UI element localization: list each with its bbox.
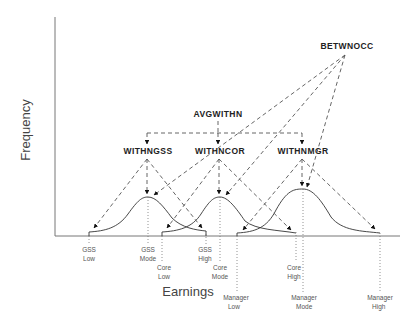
x-axis-label: Earnings [162,284,214,299]
svg-text:Manager: Manager [223,294,249,302]
svg-text:High: High [372,303,386,311]
tick-gss-high: GSS High [198,246,212,263]
node-withngss: WITHNGSS [123,146,172,156]
betwnocc-arrows [154,55,345,195]
svg-text:GSS: GSS [82,246,96,253]
node-withncor: WITHNCOR [195,146,245,156]
tick-mgr-low: Manager Low [223,294,249,310]
svg-text:Low: Low [158,273,170,280]
tick-gss-mode: GSS Mode [140,246,157,262]
svg-text:Mode: Mode [140,255,157,262]
svg-text:High: High [287,273,301,281]
svg-text:Mode: Mode [212,273,229,280]
svg-text:Manager: Manager [367,294,393,302]
svg-text:High: High [198,255,212,263]
withngss-arrows [94,159,202,228]
withnmgr-arrows [243,159,375,230]
tick-mgr-mode: Manager Mode [291,294,317,310]
y-axis-label: Frequency [18,99,33,161]
manager-distribution-curve [237,189,380,236]
withncor-arrows [167,159,291,230]
svg-text:Mode: Mode [296,303,313,310]
node-withnmgr: WITHNMGR [278,146,329,156]
tick-gss-low: GSS Low [82,246,96,262]
tick-core-low: Core Low [157,264,171,280]
tick-core-mode: Core Mode [212,264,229,280]
svg-text:Core: Core [157,264,171,271]
svg-text:GSS: GSS [198,246,212,253]
node-avgwithn: AVGWITHN [194,109,243,119]
svg-text:Core: Core [287,264,301,271]
svg-text:GSS: GSS [141,246,155,253]
node-betwnocc: BETWNOCC [320,41,373,51]
gss-distribution-curve [89,197,206,236]
svg-text:Core: Core [213,264,227,271]
svg-text:Low: Low [83,255,95,262]
svg-text:Low: Low [228,303,240,310]
tick-core-high: Core High [287,264,301,281]
tick-mgr-high: Manager High [367,294,393,311]
svg-text:Manager: Manager [291,294,317,302]
earnings-variance-diagram: Frequency Earnings GSS Low GSS Mode GSS … [0,0,416,330]
